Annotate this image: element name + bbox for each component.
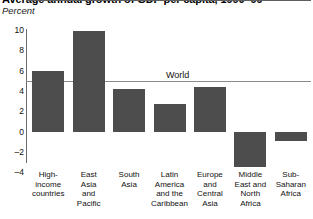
world-reference-line: [26, 81, 311, 82]
plot-area: 1086420–2–4 World High- income countries…: [0, 0, 313, 219]
bar: [234, 132, 266, 167]
bar: [73, 31, 105, 133]
y-axis-tick-label: 2: [2, 107, 24, 116]
bar: [113, 89, 145, 132]
y-axis-tick-label: –2: [2, 148, 24, 157]
bar: [194, 87, 226, 132]
y-axis-tick-label: 8: [2, 46, 24, 55]
y-axis-tick-label: 10: [2, 26, 24, 35]
bar: [275, 132, 307, 141]
x-axis-category-label: Sub- Saharan Africa: [268, 170, 313, 199]
world-reference-label: World: [163, 70, 192, 80]
y-axis-tick-label: 4: [2, 87, 24, 96]
y-axis-tick-label: 6: [2, 67, 24, 76]
bar: [32, 71, 64, 132]
zero-baseline: [26, 0, 311, 1]
y-axis-tick-label: –4: [2, 168, 24, 177]
bar: [154, 104, 186, 132]
y-axis-tick-label: 0: [2, 128, 24, 137]
chart-page: Average annual growth of GDP per capita,…: [0, 0, 313, 219]
y-axis-line: [26, 29, 27, 163]
